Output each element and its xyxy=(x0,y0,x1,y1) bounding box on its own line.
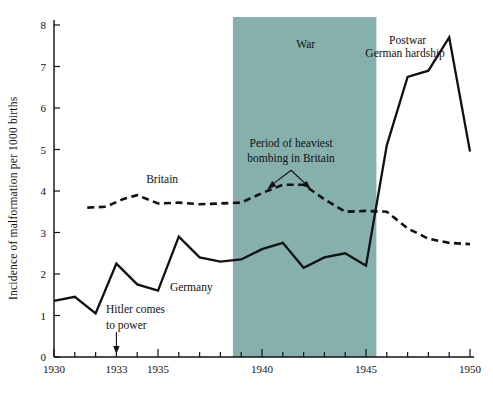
chart-container: 012345678 193019331935194019451950 Incid… xyxy=(0,0,493,398)
y-tick-label: 4 xyxy=(41,185,47,197)
y-tick-label: 6 xyxy=(41,102,47,114)
y-tick-label: 0 xyxy=(41,351,47,363)
y-tick-label: 2 xyxy=(41,268,47,280)
y-tick-label: 3 xyxy=(41,227,47,239)
y-tick-label: 1 xyxy=(41,310,47,322)
x-tick-label: 1940 xyxy=(251,363,274,375)
postwar-annotation-line1: Postwar xyxy=(389,34,426,46)
bombing-annotation-line2: bombing in Britain xyxy=(247,152,335,165)
x-tick-label: 1930 xyxy=(43,363,66,375)
x-tick-label: 1933 xyxy=(105,363,128,375)
x-tick-label: 1935 xyxy=(147,363,170,375)
y-axis-tick-labels: 012345678 xyxy=(41,19,47,363)
bombing-annotation-line1: Period of heaviest xyxy=(250,137,334,149)
y-tick-label: 7 xyxy=(41,61,47,73)
malformation-incidence-line-chart: 012345678 193019331935194019451950 Incid… xyxy=(0,0,493,398)
y-axis-title: Incidence of malformation per 1000 birth… xyxy=(7,96,20,300)
war-shaded-region xyxy=(233,17,377,357)
britain-series-label: Britain xyxy=(146,173,178,185)
x-tick-label: 1945 xyxy=(355,363,378,375)
war-annotation-label: War xyxy=(296,38,315,50)
y-tick-label: 8 xyxy=(41,19,47,31)
x-tick-label: 1950 xyxy=(459,363,482,375)
hitler-annotation-line2: to power xyxy=(106,319,147,332)
postwar-annotation-line2: German hardship xyxy=(365,47,445,60)
y-tick-label: 5 xyxy=(41,144,47,156)
germany-series-label: Germany xyxy=(170,281,213,294)
hitler-annotation-line1: Hitler comes xyxy=(106,303,166,315)
